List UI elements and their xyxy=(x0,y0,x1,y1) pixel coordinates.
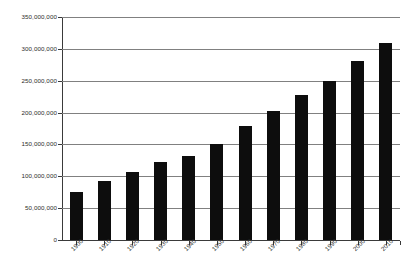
y-axis-tick-label: 0 xyxy=(53,237,57,243)
bar xyxy=(295,95,308,240)
gridline xyxy=(62,17,400,18)
y-axis-tick-mark xyxy=(58,49,62,50)
bar xyxy=(98,181,111,240)
y-axis-tick-label: 50,000,000 xyxy=(25,205,57,211)
bar xyxy=(351,61,364,240)
y-axis-tick-label: 300,000,000 xyxy=(21,46,57,52)
y-axis-tick-mark xyxy=(58,113,62,114)
y-axis-labels: 050,000,000100,000,000150,000,000200,000… xyxy=(0,0,57,276)
bar xyxy=(70,192,83,240)
y-axis-tick-mark xyxy=(58,208,62,209)
gridline xyxy=(62,240,400,241)
bar xyxy=(182,156,195,240)
y-axis-tick-label: 100,000,000 xyxy=(21,173,57,179)
gridline xyxy=(62,113,400,114)
bar-chart: 050,000,000100,000,000150,000,000200,000… xyxy=(0,0,417,276)
y-axis-tick-label: 250,000,000 xyxy=(21,78,57,84)
bar xyxy=(379,43,392,240)
gridline xyxy=(62,176,400,177)
bar xyxy=(323,81,336,240)
gridline xyxy=(62,208,400,209)
bar xyxy=(154,162,167,240)
y-axis-tick-label: 150,000,000 xyxy=(21,141,57,147)
bar xyxy=(126,172,139,240)
y-axis-tick-mark xyxy=(58,144,62,145)
y-axis-tick-mark xyxy=(58,81,62,82)
gridline xyxy=(62,144,400,145)
y-axis-tick-label: 350,000,000 xyxy=(21,14,57,20)
gridline xyxy=(62,81,400,82)
y-axis-tick-label: 200,000,000 xyxy=(21,109,57,115)
bar xyxy=(239,126,252,240)
plot-area xyxy=(62,17,400,240)
y-axis-tick-mark xyxy=(58,240,62,241)
bar xyxy=(210,144,223,240)
x-axis-tick-mark xyxy=(400,241,401,245)
y-axis-tick-mark xyxy=(58,176,62,177)
gridline xyxy=(62,49,400,50)
bar xyxy=(267,111,280,240)
y-axis-tick-mark xyxy=(58,17,62,18)
